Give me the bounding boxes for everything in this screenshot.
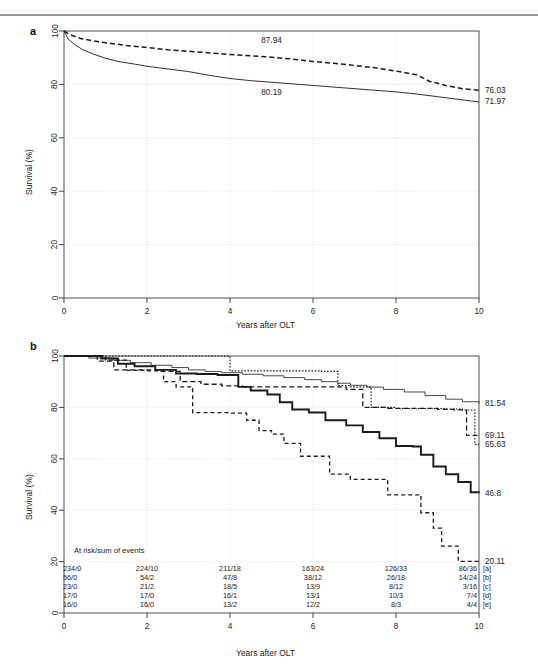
risk-cell: 26/18 — [387, 573, 405, 582]
panel-a-plot: 0246810020406080100 87.9480.19 76.0371.9… — [0, 10, 538, 320]
end-label-69.11: 69.11 — [485, 431, 505, 440]
svg-text:80: 80 — [51, 79, 60, 89]
svg-text:0: 0 — [51, 295, 60, 300]
svg-text:2: 2 — [145, 307, 150, 316]
panel-b-xlabel: Years after OLT — [236, 648, 295, 658]
risk-cell: 12/2 — [306, 600, 320, 609]
panel-a-plot-box — [64, 31, 479, 298]
risk-row-bracket-b: [b] — [483, 573, 491, 582]
panel-b-end-labels: 81.5469.1165.6346.820.11 — [485, 399, 506, 566]
risk-cell: 8/12 — [389, 582, 403, 591]
end-label-65.63: 65.63 — [485, 440, 506, 449]
panel-a-end-labels: 76.0371.97 — [485, 86, 506, 106]
risk-cell: 126/33 — [385, 564, 407, 573]
end-label-71.97: 71.97 — [485, 97, 506, 106]
risk-cell: 23/0 — [63, 582, 77, 591]
svg-text:8: 8 — [394, 307, 399, 316]
svg-text:10: 10 — [474, 307, 484, 316]
annotation-80.19: 80.19 — [261, 88, 282, 97]
curve-e — [64, 356, 479, 561]
risk-cell: 8/3 — [391, 600, 401, 609]
svg-text:40: 40 — [51, 505, 60, 515]
panel-a-ticks: 0246810020406080100 — [51, 24, 484, 316]
risk-row-bracket-a: [a] — [483, 564, 491, 573]
risk-cell: 54/2 — [140, 573, 154, 582]
svg-text:0: 0 — [51, 610, 60, 615]
risk-cell: 16/1 — [223, 591, 237, 600]
svg-text:20: 20 — [51, 240, 60, 250]
svg-text:0: 0 — [62, 307, 67, 316]
svg-text:60: 60 — [51, 133, 60, 143]
risk-cell: 13/1 — [306, 591, 320, 600]
risk-cell: 13/9 — [306, 582, 320, 591]
risk-cell: 13/2 — [223, 600, 237, 609]
risk-cell: 10/3 — [389, 591, 403, 600]
end-label-81.54: 81.54 — [485, 399, 506, 408]
svg-text:100: 100 — [51, 349, 60, 363]
risk-cell: 17/0 — [63, 591, 77, 600]
svg-text:6: 6 — [311, 622, 316, 631]
svg-text:8: 8 — [394, 622, 399, 631]
risk-row-bracket-d: [d] — [483, 591, 491, 600]
figure-container: a 0246810020406080100 87.9480.19 76.0371… — [0, 0, 538, 668]
svg-text:2: 2 — [145, 622, 150, 631]
risk-cell: 38/12 — [304, 573, 322, 582]
risk-cell: 14/24 — [459, 573, 477, 582]
risk-cell: 21/2 — [140, 582, 154, 591]
risk-cell: 16/0 — [63, 600, 77, 609]
svg-text:80: 80 — [51, 402, 60, 412]
risk-cell: 56/0 — [63, 573, 77, 582]
risk-cell: 17/0 — [140, 591, 154, 600]
svg-text:0: 0 — [62, 622, 67, 631]
panel-b-curves — [64, 356, 479, 561]
svg-text:4: 4 — [228, 622, 233, 631]
panel-a-annotations: 87.9480.19 — [261, 36, 282, 97]
svg-text:20: 20 — [51, 557, 60, 567]
risk-cell: 16/0 — [140, 600, 154, 609]
risk-cell: 211/18 — [219, 564, 241, 573]
panel-a-ylabel: Survival (%) — [24, 149, 34, 195]
svg-text:60: 60 — [51, 454, 60, 464]
risk-table-header: At risk/sum of events — [74, 546, 145, 555]
risk-cell: 163/24 — [302, 564, 324, 573]
panel-a-xlabel: Years after OLT — [236, 320, 295, 330]
curve-b — [64, 356, 479, 493]
svg-text:10: 10 — [474, 622, 484, 631]
risk-row-bracket-c: [c] — [483, 582, 491, 591]
risk-cell: 234/0 — [63, 564, 81, 573]
end-label-76.03: 76.03 — [485, 86, 506, 95]
end-label-46.8: 46.8 — [485, 489, 501, 498]
curve-c — [64, 356, 479, 435]
risk-cell: 3/16 — [463, 582, 477, 591]
annotation-87.94: 87.94 — [261, 36, 282, 45]
svg-text:100: 100 — [51, 24, 60, 38]
panel-b-plot: 0246810020406080100 81.5469.1165.6346.82… — [0, 340, 538, 640]
risk-cell: 224/10 — [136, 564, 158, 573]
risk-cell: 18/5 — [223, 582, 237, 591]
svg-text:6: 6 — [311, 307, 316, 316]
svg-text:40: 40 — [51, 186, 60, 196]
panel-a-gridlines — [64, 31, 479, 298]
svg-text:4: 4 — [228, 307, 233, 316]
panel-b-ylabel: Survival (%) — [24, 474, 34, 520]
risk-row-bracket-e: [e] — [483, 600, 491, 609]
risk-table: At risk/sum of events234/0224/10211/1816… — [63, 546, 491, 610]
risk-cell: 47/8 — [223, 573, 237, 582]
risk-cell: 4/4 — [467, 600, 477, 609]
risk-cell: 86/36 — [459, 564, 477, 573]
risk-cell: 7/4 — [467, 591, 477, 600]
